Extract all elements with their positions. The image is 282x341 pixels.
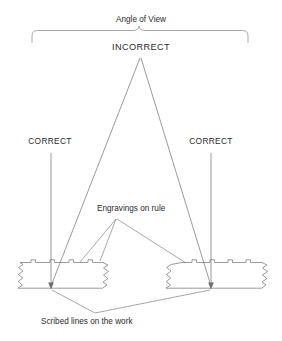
scribed-leader-right (95, 290, 210, 313)
correct-sight-lines (51, 153, 211, 284)
engraving-leader-3 (117, 219, 186, 263)
label-incorrect: INCORRECT (112, 42, 170, 52)
scribed-leader-left (52, 290, 95, 313)
scribed-leader-lines (52, 290, 210, 313)
label-engravings-on-rule: Engravings on rule (97, 204, 166, 213)
angle-of-view-diagram: Angle of View INCORRECT CORRECT CORRECT … (0, 0, 282, 341)
label-scribed-lines: Scribed lines on the work (41, 317, 133, 326)
page-title: Angle of View (116, 15, 166, 24)
sight-line-right (141, 58, 210, 284)
engraving-leader-2 (100, 219, 116, 261)
label-correct-right: CORRECT (189, 136, 233, 146)
sight-line-left (52, 58, 140, 284)
incorrect-sight-lines (52, 58, 211, 284)
rule-right (166, 260, 268, 288)
engravings-leader-lines (80, 219, 186, 263)
label-correct-left: CORRECT (28, 136, 72, 146)
diagram-canvas: Angle of View INCORRECT CORRECT CORRECT … (0, 0, 282, 341)
engraving-leader-1 (80, 219, 116, 262)
rule-left (18, 260, 109, 288)
angle-of-view-brace (32, 26, 248, 43)
